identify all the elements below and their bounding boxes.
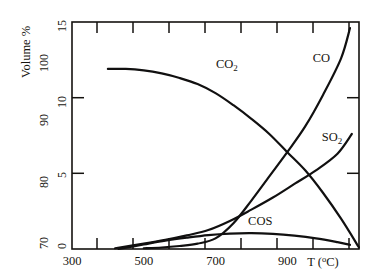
y-inner-tick-label-10: 10 (55, 96, 69, 108)
y-outer-tick-label-80: 80 (37, 176, 51, 188)
series-label-co2: CO2 (216, 57, 238, 73)
right-axis-ticks (347, 98, 359, 174)
bottom-axis-ticks (97, 238, 349, 249)
top-axis-ticks (97, 22, 349, 33)
left-axis-ticks (72, 98, 84, 174)
series-label-so2: SO2 (322, 130, 342, 146)
chart-svg: CO2 CO SO2 COS 300 500 700 900 T (oC) 0 … (0, 0, 383, 278)
x-tick-label-900: 900 (278, 254, 297, 268)
y-inner-tick-label-5: 5 (55, 172, 69, 178)
curve-so2 (115, 134, 352, 248)
x-tick-label-300: 300 (63, 254, 82, 268)
curve-co2 (108, 69, 359, 248)
x-axis-title: T (oC) (307, 254, 338, 269)
x-tick-label-700: 700 (206, 254, 225, 268)
series-label-cos: COS (248, 214, 272, 228)
y-outer-tick-label-70: 70 (37, 237, 51, 249)
y-outer-tick-label-90: 90 (37, 114, 51, 126)
series-label-co: CO (313, 51, 330, 65)
y-outer-tick-label-100: 100 (37, 54, 51, 72)
y-inner-tick-label-0: 0 (55, 243, 69, 249)
y-axis-title: Volume % (19, 26, 33, 78)
x-tick-label-500: 500 (134, 254, 153, 268)
figure-container: CO2 CO SO2 COS 300 500 700 900 T (oC) 0 … (0, 0, 383, 278)
y-inner-tick-label-15: 15 (55, 20, 69, 32)
